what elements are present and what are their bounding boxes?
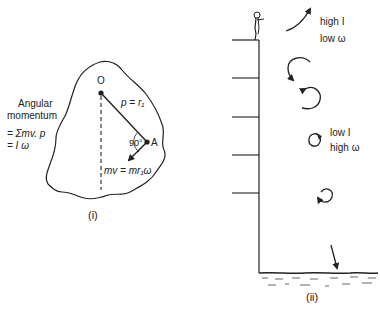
water-surface [259,273,378,286]
angular-label-line1: Angular [18,98,52,110]
angular-label-line2: momentum [7,110,57,122]
high-I-label: high I [320,16,344,28]
angular-momentum-figure: Angular momentum = Σmv. p = I ω O p = r₁… [0,0,380,312]
rotation-arrow-3 [302,87,320,108]
point-O-label: O [97,75,105,87]
rigid-body-blob [46,61,165,198]
tight-spin-arrow [309,134,322,146]
diver-figure [254,12,264,40]
low-omega-label: low ω [320,33,346,45]
velocity-label: mv = mr₁ω [104,165,151,177]
flight-arc-arrow-1 [286,9,310,31]
rotation-arrow-4 [318,189,332,202]
caption-ii: (ii) [306,291,318,303]
high-omega-label: high ω [330,142,360,154]
angular-equation-2: = I ω [7,140,29,152]
low-I-label: low I [330,127,351,139]
diagram-drawing [0,0,380,312]
caption-i: (i) [88,209,98,221]
rotation-arrow-2 [288,58,310,80]
angular-equation-1: = Σmv. p [7,128,45,140]
point-A-label: A [151,137,158,149]
radius-label: p = r₁ [121,97,144,109]
diving-board-cliff [232,40,259,273]
entry-arrow [331,245,337,268]
angle-label: 90° [129,137,143,149]
